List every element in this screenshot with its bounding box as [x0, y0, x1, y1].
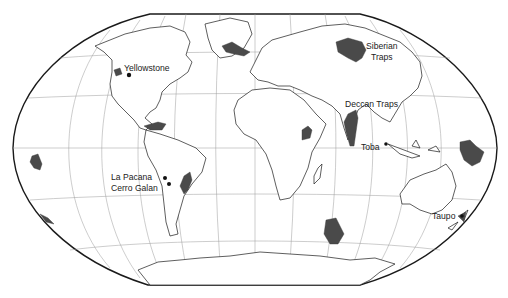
cerro-galan-marker[interactable] — [167, 182, 171, 186]
taupo-marker[interactable] — [460, 214, 464, 218]
map-canvas — [0, 0, 508, 298]
world-map: Yellowstone Siberian Traps Deccan Traps … — [0, 0, 508, 298]
la-pacana-marker[interactable] — [163, 176, 167, 180]
toba-marker[interactable] — [384, 142, 388, 146]
yellowstone-marker[interactable] — [127, 73, 131, 77]
